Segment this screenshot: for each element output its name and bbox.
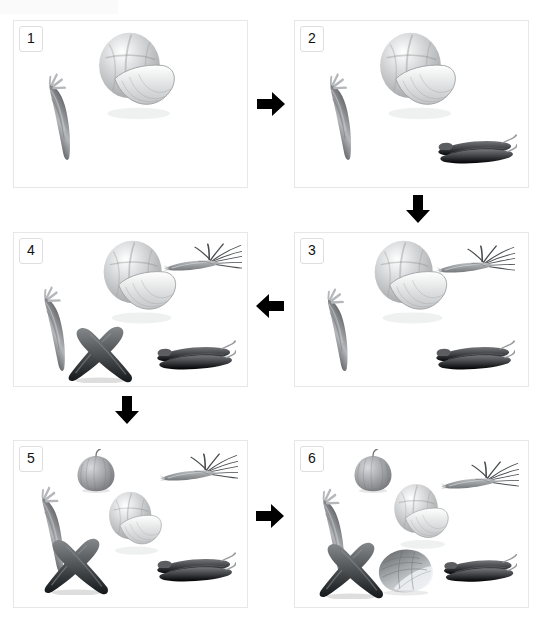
panel-4[interactable]: 4: [13, 232, 248, 387]
chili-peppers-icon: [435, 127, 517, 171]
chili-peppers-icon: [441, 547, 517, 589]
panel-1-canvas: [14, 21, 247, 187]
panel-6[interactable]: 6: [294, 440, 529, 608]
arrow-2-to-3-down-arrow-icon: [402, 193, 434, 225]
arrow-1-to-2-right-arrow-icon: [255, 88, 287, 120]
panel-2-canvas: [295, 21, 528, 187]
onion-icon: [74, 449, 118, 493]
panel-number-badge: 2: [300, 26, 324, 52]
napa-cabbage-icon: [375, 545, 437, 597]
panel-2[interactable]: 2: [294, 20, 529, 188]
spring-onions-icon: [437, 245, 515, 287]
panel-5[interactable]: 5: [13, 440, 248, 608]
panel-3-canvas: [295, 233, 528, 386]
panel-number-badge: 6: [300, 446, 324, 472]
panel-number-badge: 3: [300, 238, 324, 264]
cucumbers-icon: [42, 533, 110, 595]
spring-onions-icon: [160, 453, 238, 495]
cabbage-icon: [387, 481, 453, 553]
arrow-4-to-5-down-arrow-icon: [111, 394, 143, 426]
chili-peppers-icon: [154, 545, 236, 589]
spring-onions-icon: [164, 243, 242, 285]
panel-6-canvas: [295, 441, 528, 607]
panel-4-canvas: [14, 233, 247, 386]
cabbage-icon: [89, 29, 181, 125]
panel-number-badge: 1: [19, 26, 43, 52]
panel-5-canvas: [14, 441, 247, 607]
arrow-5-to-6-right-arrow-icon: [254, 500, 286, 532]
panel-3[interactable]: 3: [294, 232, 529, 387]
scan-artifact: [0, 0, 118, 14]
panel-number-badge: 4: [19, 238, 43, 264]
chili-peppers-icon: [433, 333, 515, 377]
chili-peppers-icon: [154, 333, 236, 377]
cucumbers-icon: [66, 321, 134, 383]
arrow-3-to-4-left-arrow-icon: [254, 290, 286, 322]
cabbage-icon: [370, 29, 462, 125]
figure-stage: 1: [0, 0, 542, 625]
panel-number-badge: 5: [19, 446, 43, 472]
panel-1[interactable]: 1: [13, 20, 248, 188]
